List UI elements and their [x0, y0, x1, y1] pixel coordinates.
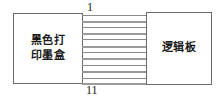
block-label-black-ink-cartridge: 黑色打 印墨盒	[31, 34, 66, 64]
ribbon-wire	[82, 21, 147, 23]
ribbon-wire	[82, 52, 147, 53]
ribbon-wire	[82, 27, 147, 28]
diagram-canvas: 黑色打 印墨盒 1 11 逻辑板	[0, 0, 223, 107]
ribbon-wire	[82, 15, 147, 16]
ribbon-wire	[82, 78, 147, 79]
ribbon-wire	[82, 33, 147, 35]
ribbon-wire	[82, 71, 147, 73]
ribbon-wire	[82, 65, 147, 66]
pin-number-last: 11	[86, 84, 98, 96]
ribbon-wire	[82, 58, 147, 60]
block-black-ink-cartridge: 黑色打 印墨盒	[13, 13, 83, 84]
block-logic-board: 逻辑板	[146, 12, 212, 85]
ribbon-cable-connector	[82, 15, 147, 84]
ribbon-wire	[82, 46, 147, 48]
block-label-logic-board: 逻辑板	[162, 41, 197, 56]
pin-number-first: 1	[87, 1, 93, 13]
ribbon-wire	[82, 39, 147, 40]
